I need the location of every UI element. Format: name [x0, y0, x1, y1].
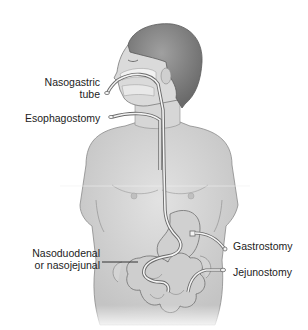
label-gastrostomy: Gastrostomy — [233, 240, 293, 252]
feeding-tube-illustration — [0, 0, 308, 330]
label-nasoduodenal-line1: Nasoduodenal — [10, 247, 100, 259]
label-nasogastric-line2: tube — [20, 88, 100, 100]
label-nasogastric-tube: Nasogastric tube — [20, 76, 100, 100]
gastrostomy-tube-end — [223, 247, 227, 251]
nasogastric-tube-end — [105, 91, 110, 94]
label-esophagostomy: Esophagostomy — [25, 112, 100, 124]
label-nasoduodenal: Nasoduodenal or nasojejunal — [10, 247, 100, 271]
oral-cavity — [122, 85, 154, 96]
left-nipple — [131, 193, 137, 199]
jejunostomy-tube-end — [220, 268, 225, 272]
esophagostomy-tube-end — [109, 115, 114, 118]
label-nasogastric-line1: Nasogastric — [20, 76, 100, 88]
head — [114, 24, 202, 108]
ear — [161, 68, 171, 84]
label-nasoduodenal-line2: or nasojejunal — [10, 259, 100, 271]
label-jejunostomy: Jejunostomy — [233, 266, 292, 278]
right-nipple — [188, 193, 194, 199]
